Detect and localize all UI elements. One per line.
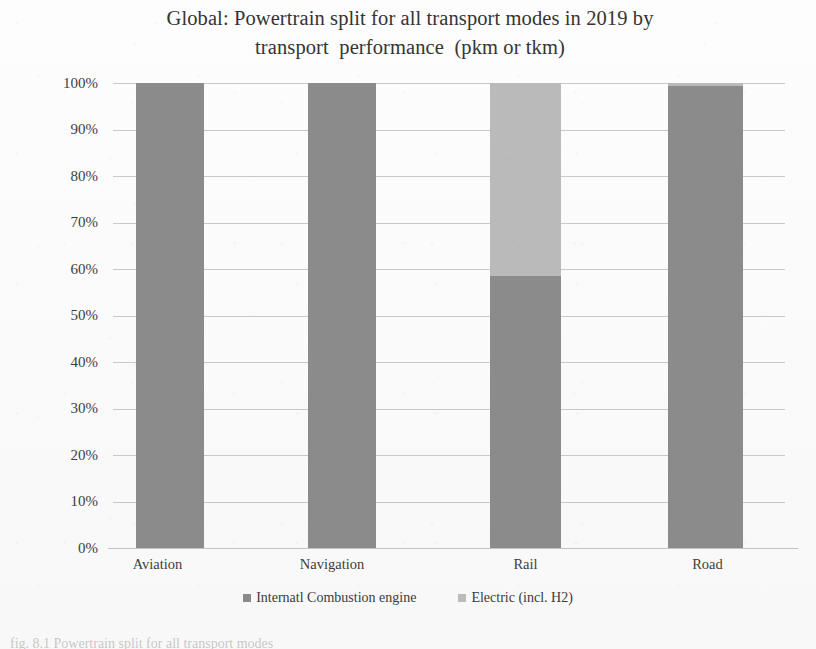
x-axis-line	[108, 548, 798, 549]
chart-title-line-1: Global: Powertrain split for all transpo…	[60, 4, 760, 33]
y-tick-label-60: 60%	[34, 261, 98, 278]
legend-item-ice[interactable]: Internatl Combustion engine	[243, 590, 416, 606]
bar-aviation-segment-ice[interactable]	[136, 83, 204, 548]
chart-title-line-2: transport performance (pkm or tkm)	[60, 33, 760, 62]
bar-road-segment-electric[interactable]	[668, 83, 743, 86]
bar-rail-segment-ice[interactable]	[490, 276, 561, 548]
x-label-navigation: Navigation	[272, 556, 392, 573]
bar-navigation-segment-ice[interactable]	[308, 83, 376, 548]
y-tick-label-30: 30%	[34, 400, 98, 417]
legend-swatch-ice-icon	[243, 594, 251, 602]
bar-rail-segment-electric[interactable]	[490, 83, 561, 276]
figure-caption-cutoff: fig. 8.1 Powertrain split for all transp…	[10, 636, 273, 649]
legend-swatch-electric-icon	[458, 594, 466, 602]
y-tick-label-50: 50%	[34, 307, 98, 324]
y-tick-label-40: 40%	[34, 354, 98, 371]
bar-road[interactable]	[668, 83, 743, 548]
bar-aviation[interactable]	[136, 83, 204, 548]
y-tick-label-0: 0%	[34, 540, 98, 557]
chart-legend: Internatl Combustion engine Electric (in…	[0, 590, 816, 606]
x-label-road: Road	[650, 556, 765, 573]
x-label-rail: Rail	[468, 556, 583, 573]
y-tick-label-80: 80%	[34, 168, 98, 185]
y-tick-label-90: 90%	[34, 121, 98, 138]
legend-item-electric[interactable]: Electric (incl. H2)	[458, 590, 572, 606]
bar-navigation[interactable]	[308, 83, 376, 548]
plot-area	[113, 83, 785, 548]
legend-label-electric: Electric (incl. H2)	[471, 590, 572, 606]
y-tick-label-10: 10%	[34, 493, 98, 510]
chart-title: Global: Powertrain split for all transpo…	[60, 4, 760, 62]
legend-label-ice: Internatl Combustion engine	[256, 590, 416, 606]
x-label-aviation: Aviation	[100, 556, 215, 573]
y-tick-label-100: 100%	[34, 75, 98, 92]
bar-road-segment-ice[interactable]	[668, 86, 743, 548]
y-tick-label-20: 20%	[34, 447, 98, 464]
y-tick-label-70: 70%	[34, 214, 98, 231]
bar-rail[interactable]	[490, 83, 561, 548]
